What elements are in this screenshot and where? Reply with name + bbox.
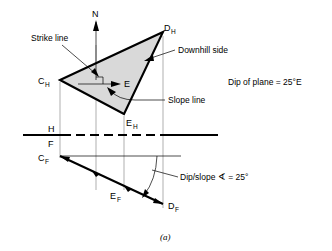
point-label-DH-sub: H [171, 28, 176, 35]
point-label-EF-base: E [110, 191, 116, 201]
point-label-EH-sub: H [133, 123, 138, 130]
north-label: N [92, 9, 99, 19]
point-label-CF: C F [38, 153, 49, 165]
point-label-EF: E F [110, 191, 121, 203]
point-label-DF-base: D [168, 201, 175, 211]
figure-caption: (a) [160, 232, 171, 242]
point-label-DF: D F [168, 201, 179, 213]
point-label-CH-sub: H [45, 81, 50, 88]
point-label-EF-sub: F [117, 196, 121, 203]
point-label-EH: E H [126, 118, 138, 130]
east-label: E [124, 79, 130, 89]
dip-slope-angle-note: Dip/slope ∢ = 25° [180, 172, 248, 182]
point-label-EH-base: E [126, 118, 132, 128]
point-label-DH: D H [164, 23, 176, 35]
point-label-DH-base: D [164, 23, 171, 33]
point-label-CH: C H [38, 76, 50, 88]
dip-of-plane-note: Dip of plane = 25°E [228, 77, 302, 87]
point-label-CF-base: C [38, 153, 45, 163]
strike-line-label: Strike line [31, 33, 69, 43]
dip-slope-angle-arc [142, 156, 178, 198]
hf-horizontal-label: H [48, 124, 55, 134]
point-label-CH-base: C [38, 76, 45, 86]
hf-frontal-label: F [48, 139, 54, 149]
engineering-drawing: N E Strike line Downhill side Slope line… [0, 0, 332, 251]
downhill-side-label: Downhill side [178, 45, 228, 55]
point-label-DF-sub: F [175, 206, 179, 213]
slope-line-label: Slope line [168, 95, 206, 105]
point-label-CF-sub: F [45, 158, 49, 165]
figure-container: N E Strike line Downhill side Slope line… [0, 0, 332, 251]
